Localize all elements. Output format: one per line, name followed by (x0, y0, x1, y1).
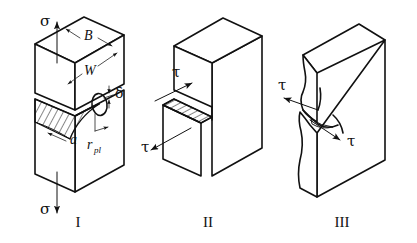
mode-1-sigma-bottom-label: σ (40, 200, 50, 218)
mode-2-tau-top-label: τ (172, 63, 180, 81)
mode-1-roman-label: I (76, 214, 81, 230)
fracture-modes-figure: σ σ B W δ a r pl I (0, 0, 417, 243)
mode-1-sigma-top-label: σ (40, 12, 50, 30)
mode-3-tau-bottom-label: τ (347, 132, 355, 150)
mode-3-group: τ τ III (278, 24, 385, 230)
mode-1-dim-a-label: a (70, 132, 77, 147)
fracture-modes-svg: σ σ B W δ a r pl I (0, 0, 417, 243)
mode-1-dim-delta-label: δ (115, 85, 123, 101)
mode-2-group: τ τ II (141, 18, 262, 230)
mode-3-tau-top-label: τ (278, 76, 286, 94)
mode-1-dim-rpl-subscript: pl (93, 145, 102, 155)
mode-1-group: σ σ B W δ a r pl I (35, 12, 124, 230)
mode-3-roman-label: III (335, 214, 350, 230)
mode-1-dim-W-label: W (84, 63, 97, 78)
mode-1-dim-B-label: B (84, 28, 93, 43)
mode-2-tau-bottom-label: τ (141, 138, 149, 156)
mode-2-roman-label: II (203, 214, 213, 230)
mode-3-tau-top-curve (318, 88, 321, 110)
mode-1-dim-rpl-label: r (87, 137, 93, 152)
